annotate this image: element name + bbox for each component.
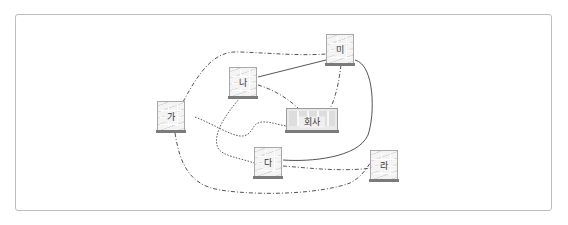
edge-da-ra <box>283 166 372 170</box>
building-label: 다 <box>262 157 274 168</box>
building-label: 미 <box>334 44 346 55</box>
edge-ga-hq <box>195 117 286 136</box>
edge-na-da <box>217 98 254 163</box>
building-base <box>228 96 258 99</box>
building-ga[interactable]: 가 <box>157 101 185 132</box>
building-label: 라 <box>378 160 390 171</box>
building-ra[interactable]: 라 <box>370 150 398 181</box>
building-label: 나 <box>237 77 249 88</box>
building-da[interactable]: 다 <box>254 147 282 178</box>
building-label: 가 <box>165 111 177 122</box>
edge-na-mi <box>258 60 326 77</box>
edge-na-hq <box>258 85 300 110</box>
building-base <box>253 176 283 179</box>
building-label: 회사 <box>299 117 325 128</box>
building-base <box>369 179 399 182</box>
connection-lines <box>0 0 568 225</box>
building-base <box>156 130 186 133</box>
building-na[interactable]: 나 <box>229 67 257 98</box>
building-mi[interactable]: 미 <box>326 34 354 65</box>
building-base <box>285 130 339 133</box>
building-base <box>325 63 355 66</box>
building-headquarters[interactable]: 회사 <box>286 108 338 132</box>
